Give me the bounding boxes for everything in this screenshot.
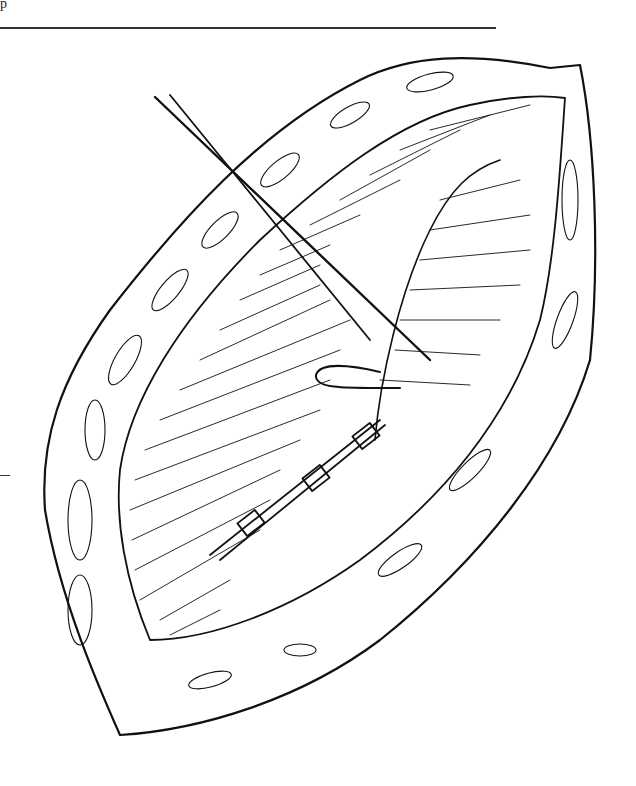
surgical-illustration — [0, 0, 636, 786]
fat-lobules — [68, 68, 583, 692]
document-page: p — [0, 0, 636, 786]
fascia-fold — [375, 160, 500, 440]
suture-loop — [316, 366, 400, 388]
suture-strand-2 — [170, 95, 370, 340]
outer-skin-edge — [44, 58, 595, 735]
inner-wound-edge — [119, 96, 565, 640]
suture-strand-1 — [155, 97, 430, 360]
